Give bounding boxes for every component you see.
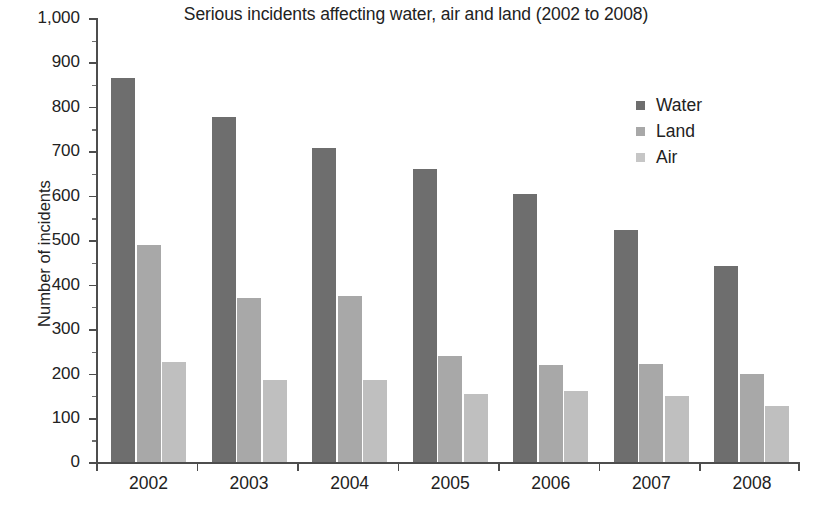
x-axis-line: [96, 462, 800, 464]
x-tick-label: 2005: [431, 473, 470, 494]
y-tick-minor: [92, 41, 96, 42]
bar-group: [513, 18, 588, 462]
bar-water-2007: [614, 230, 638, 462]
bar-water-2004: [312, 148, 336, 463]
bar-group: [614, 18, 689, 462]
bar-air-2008: [765, 406, 789, 463]
page-edge: [0, 506, 813, 512]
y-tick-label: 600: [52, 185, 80, 205]
bar-water-2008: [714, 266, 738, 462]
x-tick: [96, 464, 98, 471]
y-tick-major: 600: [89, 196, 96, 198]
y-tick-minor: [92, 174, 96, 175]
legend-label: Land: [656, 121, 695, 142]
x-tick-label: 2004: [330, 473, 369, 494]
bar-land-2003: [237, 298, 261, 462]
plot-area: 01002003004005006007008009001,000 200220…: [96, 18, 800, 464]
x-tick-label: 2003: [230, 473, 269, 494]
bar-water-2003: [212, 117, 236, 463]
y-axis-line: [96, 18, 98, 464]
bar-air-2006: [564, 391, 588, 462]
legend-swatch-air: [636, 153, 645, 162]
bar-group: [111, 18, 186, 462]
y-tick-minor: [92, 352, 96, 353]
y-tick-label: 200: [52, 363, 80, 383]
x-tick-label: 2006: [531, 473, 570, 494]
bar-group: [413, 18, 488, 462]
y-tick-major: 700: [89, 151, 96, 153]
x-tick-label: 2002: [129, 473, 168, 494]
bar-air-2002: [162, 362, 186, 462]
x-tick: [498, 464, 500, 471]
bar-water-2006: [513, 194, 537, 463]
bar-water-2005: [413, 169, 437, 462]
bar-land-2002: [137, 245, 161, 463]
y-tick-major: 300: [89, 329, 96, 331]
y-tick-label: 900: [52, 52, 80, 72]
y-tick-major: 1,000: [89, 18, 96, 20]
y-tick-label: 0: [71, 452, 80, 472]
legend-item-land: Land: [636, 118, 796, 144]
bar-land-2004: [338, 296, 362, 463]
x-tick: [798, 464, 800, 471]
y-tick-minor: [92, 307, 96, 308]
y-tick-major: 500: [89, 240, 96, 242]
y-tick-label: 800: [52, 96, 80, 116]
bar-land-2005: [438, 356, 462, 463]
x-tick: [699, 464, 701, 471]
bar-chart-figure: Serious incidents affecting water, air a…: [0, 0, 813, 512]
y-tick-label: 1,000: [37, 8, 80, 28]
legend-item-air: Air: [636, 144, 796, 170]
y-tick-major: 800: [89, 107, 96, 109]
legend-label: Water: [656, 95, 702, 116]
bar-water-2002: [111, 78, 135, 462]
bar-air-2003: [263, 380, 287, 462]
bar-air-2005: [464, 394, 488, 463]
bar-land-2008: [740, 374, 764, 463]
y-tick-minor: [92, 218, 96, 219]
legend-item-water: Water: [636, 92, 796, 118]
legend-swatch-land: [636, 127, 645, 136]
y-tick-label: 100: [52, 408, 80, 428]
y-tick-major: 400: [89, 285, 96, 287]
y-tick-label: 700: [52, 141, 80, 161]
y-tick-minor: [92, 396, 96, 397]
x-tick: [599, 464, 601, 471]
chart-legend: WaterLandAir: [636, 92, 796, 170]
y-tick-label: 500: [52, 230, 80, 250]
legend-swatch-water: [636, 101, 645, 110]
x-tick: [297, 464, 299, 471]
bar-group: [212, 18, 287, 462]
y-tick-minor: [92, 263, 96, 264]
bar-land-2007: [639, 364, 663, 463]
bar-land-2006: [539, 365, 563, 463]
y-tick-major: 900: [89, 62, 96, 64]
y-tick-minor: [92, 85, 96, 86]
bar-group: [714, 18, 789, 462]
y-tick-major: 0: [89, 462, 96, 464]
x-tick-label: 2008: [732, 473, 771, 494]
x-tick: [197, 464, 199, 471]
x-tick: [398, 464, 400, 471]
legend-label: Air: [656, 147, 677, 168]
y-tick-major: 200: [89, 374, 96, 376]
bar-group: [312, 18, 387, 462]
bar-air-2007: [665, 396, 689, 463]
y-tick-label: 400: [52, 274, 80, 294]
bar-air-2004: [363, 380, 387, 462]
y-tick-minor: [92, 129, 96, 130]
y-tick-major: 100: [89, 418, 96, 420]
y-tick-minor: [92, 440, 96, 441]
y-tick-label: 300: [52, 319, 80, 339]
x-tick-label: 2007: [632, 473, 671, 494]
